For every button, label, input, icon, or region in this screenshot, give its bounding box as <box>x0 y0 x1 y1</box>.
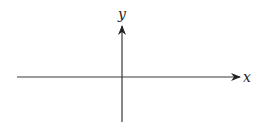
y-axis-label: y <box>117 6 127 22</box>
x-axis-label: x <box>243 69 251 85</box>
coordinate-axes-diagram: x y <box>0 0 259 125</box>
